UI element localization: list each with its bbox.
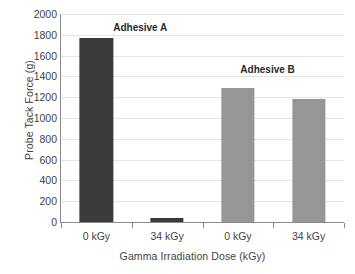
- x-axis-tick: [273, 223, 274, 228]
- y-axis-tick-label: 1600: [12, 51, 57, 61]
- bar-slot: [61, 14, 132, 222]
- x-axis-title: Gamma Irradiation Dose (kGy): [40, 250, 345, 262]
- bar: [80, 38, 113, 222]
- x-axis-tick-label: 34 kGy: [273, 230, 344, 242]
- x-axis-tick-labels: 0 kGy34 kGy0 kGy34 kGy: [61, 230, 344, 242]
- x-axis-tick: [132, 223, 133, 228]
- y-axis-tick-label: 1200: [12, 92, 57, 102]
- y-axis-tick-label: 2000: [12, 9, 57, 19]
- y-axis-tick-label: 200: [12, 196, 57, 206]
- x-axis-tick-label: 34 kGy: [132, 230, 203, 242]
- y-axis-tick-label: 0: [12, 217, 57, 227]
- bar: [292, 99, 325, 222]
- bar-slot: [273, 14, 344, 222]
- bar-slot: [132, 14, 203, 222]
- x-axis-tick-label: 0 kGy: [203, 230, 274, 242]
- y-axis-tick-label: 600: [12, 155, 57, 165]
- bar-chart: Probe Tack Force (g) 0200400600800100012…: [0, 0, 355, 274]
- y-axis-tick-label: 400: [12, 175, 57, 185]
- bar: [221, 88, 254, 222]
- y-axis-tick-labels: 0200400600800100012001400160018002000: [12, 14, 57, 222]
- y-axis-tick-label: 1000: [12, 113, 57, 123]
- x-axis-ticks: [61, 223, 344, 228]
- y-axis-tick-label: 1800: [12, 30, 57, 40]
- series-annotation: Adhesive A: [69, 22, 211, 33]
- plot-area: Adhesive AAdhesive B: [61, 14, 344, 222]
- y-axis-tick-label: 1400: [12, 71, 57, 81]
- y-axis-line: [60, 14, 61, 223]
- x-axis-tick: [344, 223, 345, 228]
- bar-slot: [203, 14, 274, 222]
- bar-series: [61, 14, 344, 222]
- x-axis-tick: [203, 223, 204, 228]
- y-axis-tick-label: 800: [12, 134, 57, 144]
- x-axis-tick: [61, 223, 62, 228]
- x-axis-tick-label: 0 kGy: [61, 230, 132, 242]
- series-annotation: Adhesive B: [197, 64, 339, 75]
